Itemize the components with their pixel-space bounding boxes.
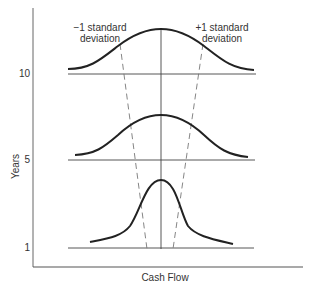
minus-sd-label: −1 standard deviation <box>70 22 130 44</box>
y-axis-title: Years <box>10 153 21 181</box>
plus-one-sd-line <box>173 44 203 249</box>
x-axis-title: Cash Flow <box>135 272 195 283</box>
distribution-curve-year-1 <box>90 180 233 244</box>
plus-sd-label: +1 standard deviation <box>192 22 252 44</box>
plus-sd-label-line2: deviation <box>192 33 252 44</box>
minus-sd-label-line2: deviation <box>70 33 130 44</box>
y-tick-1: 1 <box>10 242 30 253</box>
distribution-curve-year-5 <box>75 115 248 157</box>
minus-sd-label-line1: −1 standard <box>70 22 130 33</box>
plus-sd-label-line1: +1 standard <box>192 22 252 33</box>
probability-distribution-diagram <box>0 0 310 285</box>
y-tick-10: 10 <box>10 68 30 79</box>
